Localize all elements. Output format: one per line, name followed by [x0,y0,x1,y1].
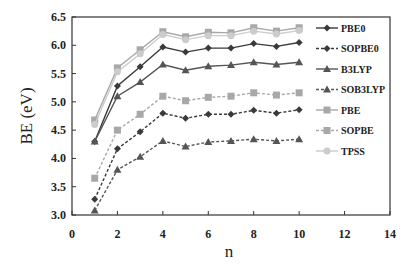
legend-label: PBE [341,105,361,116]
circle-marker-icon [159,31,166,38]
triangle-marker-icon [113,166,121,173]
diamond-marker-icon [91,196,98,203]
square-marker-icon [137,111,144,118]
legend-label: SOPBE [341,125,374,136]
legend-item-b3lyp: B3LYP [316,64,372,75]
series-line [95,62,299,141]
triangle-legend-icon [323,86,331,93]
y-tick-label: 3.0 [51,208,66,222]
legend-item-pbe: PBE [316,105,361,116]
series-line [95,28,299,120]
series-sopbe [91,89,302,181]
triangle-marker-icon [159,137,167,144]
square-marker-icon [182,97,189,104]
triangle-marker-icon [295,135,303,142]
x-tick-label: 6 [205,227,211,241]
circle-marker-icon [250,28,257,35]
series-b3lyp [91,58,303,144]
circle-marker-icon [228,32,235,39]
square-legend-icon [324,107,331,114]
x-tick-label: 14 [384,227,396,241]
series-pbe [91,24,302,123]
legend: PBE0SOPBE0B3LYPSOB3LYPPBESOPBETPSS [316,23,385,157]
line-chart: 3.03.54.04.55.05.56.06.502468101214nBE (… [0,0,407,272]
diamond-marker-icon [273,43,280,50]
square-legend-icon [324,127,331,134]
x-tick-label: 12 [339,227,351,241]
y-tick-label: 6.5 [51,10,66,24]
y-axis-label: BE (eV) [17,87,36,144]
y-tick-label: 4.0 [51,151,66,165]
square-marker-icon [205,94,212,101]
circle-marker-icon [182,36,189,43]
circle-legend-icon [324,148,331,155]
triangle-marker-icon [250,135,258,142]
diamond-marker-icon [273,110,280,117]
x-axis-label: n [225,242,234,261]
x-tick-label: 0 [69,227,75,241]
legend-item-sopbe0: SOPBE0 [316,43,379,54]
x-tick-label: 4 [160,227,166,241]
series-sob3lyp [91,135,303,213]
square-marker-icon [91,175,98,182]
legend-label: TPSS [341,146,365,157]
circle-marker-icon [91,121,98,128]
diamond-legend-icon [324,25,331,32]
diamond-marker-icon [250,107,257,114]
triangle-marker-icon [295,58,303,65]
series-line [95,31,299,125]
y-tick-label: 3.5 [51,180,66,194]
x-tick-label: 8 [251,227,257,241]
legend-item-pbe0: PBE0 [316,23,365,34]
square-marker-icon [296,89,303,96]
square-marker-icon [273,92,280,99]
legend-label: SOB3LYP [341,84,385,95]
series-sopbe0 [91,106,302,202]
diamond-marker-icon [205,45,212,52]
diamond-marker-icon [114,145,121,152]
square-marker-icon [114,127,121,134]
y-tick-label: 5.5 [51,67,66,81]
legend-item-sopbe: SOPBE [316,125,374,136]
diamond-marker-icon [250,40,257,47]
x-tick-label: 10 [293,227,305,241]
diamond-marker-icon [182,115,189,122]
circle-marker-icon [273,30,280,37]
legend-label: B3LYP [341,64,372,75]
triangle-marker-icon [204,138,212,145]
circle-marker-icon [114,68,121,75]
triangle-marker-icon [91,206,99,213]
legend-label: SOPBE0 [341,43,379,54]
diamond-marker-icon [228,45,235,52]
legend-item-tpss: TPSS [316,146,365,157]
circle-marker-icon [296,27,303,34]
triangle-marker-icon [250,58,258,65]
diamond-marker-icon [228,111,235,118]
circle-marker-icon [205,32,212,39]
diamond-marker-icon [296,39,303,46]
diamond-marker-icon [159,110,166,117]
square-marker-icon [228,93,235,100]
legend-label: PBE0 [341,23,365,34]
diamond-marker-icon [296,106,303,113]
y-tick-label: 4.5 [51,123,66,137]
y-tick-label: 6.0 [51,38,66,52]
triangle-marker-icon [136,153,144,160]
square-marker-icon [250,89,257,96]
circle-marker-icon [137,50,144,57]
x-tick-label: 2 [114,227,120,241]
series-line [95,110,299,199]
y-tick-label: 5.0 [51,95,66,109]
triangle-marker-icon [159,61,167,68]
legend-item-sob3lyp: SOB3LYP [316,84,385,95]
diamond-marker-icon [205,111,212,118]
diamond-marker-icon [182,49,189,56]
series-line [95,139,299,210]
square-marker-icon [159,93,166,100]
diamond-legend-icon [324,45,331,52]
